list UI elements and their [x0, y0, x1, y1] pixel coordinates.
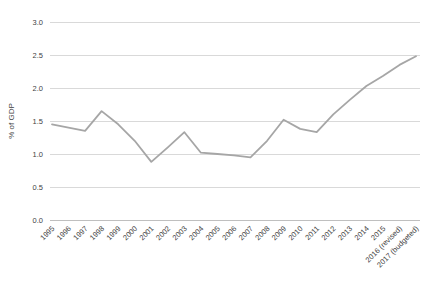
y-tick-label: 0.5	[33, 183, 43, 192]
x-tick-label: 1995	[38, 224, 56, 242]
line-chart: 0.00.51.01.52.02.53.01995199619971998199…	[0, 0, 440, 288]
y-tick-label: 1.0	[33, 150, 43, 159]
x-tick-label: 2013	[336, 224, 354, 242]
x-tick-label: 1998	[88, 224, 106, 242]
x-tick-label: 2006	[220, 224, 238, 242]
x-tick-label: 2003	[171, 224, 189, 242]
x-tick-label: 2010	[286, 224, 304, 242]
x-tick-label: 1997	[71, 224, 89, 242]
x-tick-label: 2007	[237, 224, 255, 242]
y-tick-label: 3.0	[33, 18, 43, 27]
x-tick-label: 2005	[204, 224, 222, 242]
x-tick-label: 2012	[320, 224, 338, 242]
line-chart-svg: 0.00.51.01.52.02.53.01995199619971998199…	[0, 0, 440, 288]
x-tick-label: 2001	[138, 224, 156, 242]
x-tick-label: 2011	[303, 224, 321, 242]
y-tick-label: 2.5	[33, 51, 43, 60]
y-axis-title: % of GDP	[7, 103, 16, 139]
x-tick-label: 2004	[187, 224, 205, 242]
y-tick-label: 1.5	[33, 117, 43, 126]
data-line-series	[52, 56, 416, 162]
x-tick-label: 1999	[104, 224, 122, 242]
x-tick-label: 2008	[253, 224, 271, 242]
x-tick-label: 2014	[353, 224, 371, 242]
y-tick-label: 2.0	[33, 84, 43, 93]
x-tick-label: 1996	[55, 224, 73, 242]
x-tick-label: 2000	[121, 224, 139, 242]
x-tick-label: 2009	[270, 224, 288, 242]
y-tick-label: 0.0	[33, 216, 43, 225]
x-tick-label: 2002	[154, 224, 172, 242]
